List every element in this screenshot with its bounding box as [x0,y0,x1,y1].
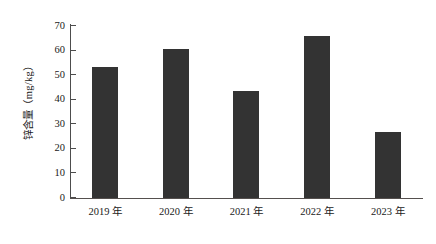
bars-layer [70,26,423,198]
y-tick-label-60: 60 [55,45,66,56]
bar [163,49,189,198]
bar-group [211,26,282,198]
bar [92,67,118,198]
y-tick-label-0: 0 [60,192,65,203]
bar-group [141,26,212,198]
x-tick-label: 2020 年 [159,206,193,219]
x-tick-label: 2023 年 [371,206,405,219]
x-tick-label: 2019 年 [88,206,122,219]
y-tick-label-50: 50 [55,69,66,80]
bar [233,91,259,198]
y-tick-label-40: 40 [55,94,66,105]
bar [375,132,401,198]
x-tick-labels: 2019 年2020 年2021 年2022 年2023 年 [70,206,423,228]
y-tick-label-10: 10 [55,168,66,179]
bar [304,36,330,198]
y-tick-label-70: 70 [55,20,66,31]
bar-group [70,26,141,198]
bar-group [352,26,423,198]
y-axis-title: 锌含量（mg/kg） [16,0,40,200]
y-axis-title-text: 锌含量（mg/kg） [21,60,36,140]
plot-area: 010203040506070 [70,26,423,198]
x-tick-label: 2022 年 [300,206,334,219]
bar-chart-figure: 锌含量（mg/kg） 010203040506070 2019 年2020 年2… [0,0,436,244]
y-tick-label-30: 30 [55,119,66,130]
bar-group [282,26,353,198]
x-tick-label: 2021 年 [230,206,264,219]
y-tick-label-20: 20 [55,143,66,154]
